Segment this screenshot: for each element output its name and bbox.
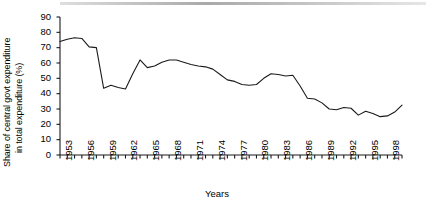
y-axis-tick-label: 90	[31, 12, 51, 22]
y-axis-tick-label: 30	[31, 104, 51, 114]
y-axis-tick-label: 60	[31, 58, 51, 68]
x-axis-tick-label: 1980	[260, 140, 270, 161]
x-axis-tick-label: 1968	[173, 140, 183, 161]
x-axis-tick-label: 1977	[239, 140, 249, 161]
y-axis-title-line-2: in total expenditure (%)	[14, 0, 25, 153]
y-axis-title-line-1: Share of central govt expenditure	[2, 9, 13, 167]
y-axis-tick-label: 20	[31, 119, 51, 129]
y-axis-tick-label: 70	[31, 42, 51, 52]
x-axis-tick-label: 1953	[64, 140, 74, 161]
plot-area	[0, 0, 426, 206]
axes	[57, 17, 403, 159]
y-axis-tick-label: 50	[31, 73, 51, 83]
x-axis-title: Years	[205, 188, 229, 199]
x-axis-tick-label: 1986	[304, 140, 314, 161]
x-axis-tick-label: 1959	[108, 140, 118, 161]
data-series-line	[60, 38, 402, 117]
x-axis-tick-label: 1974	[217, 140, 227, 161]
x-axis-tick-label: 1962	[129, 140, 139, 161]
y-axis-tick-label: 40	[31, 88, 51, 98]
x-axis-tick-label: 1965	[151, 140, 161, 161]
x-axis-tick-label: 1998	[391, 140, 401, 161]
x-axis-tick-label: 1983	[282, 140, 292, 161]
x-axis-tick-label: 1956	[86, 140, 96, 161]
scan-artifact	[60, 2, 426, 5]
x-axis-tick-label: 1995	[370, 140, 380, 161]
x-axis-tick-label: 1992	[348, 140, 358, 161]
y-axis-tick-label: 80	[31, 27, 51, 37]
x-axis-tick-label: 1989	[326, 140, 336, 161]
x-axis-tick-label: 1971	[195, 140, 205, 161]
chart-figure: Share of central govt expenditure in tot…	[0, 0, 426, 206]
y-axis-tick-label: 10	[31, 134, 51, 144]
y-axis-tick-label: 0	[31, 150, 51, 160]
